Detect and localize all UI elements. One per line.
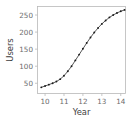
- data-point: [71, 65, 73, 67]
- data-point: [97, 27, 99, 29]
- y-tick-label: 50: [24, 79, 34, 88]
- x-tick-label: 13: [97, 97, 106, 106]
- y-tick-label: 100: [19, 62, 33, 71]
- data-point: [78, 54, 80, 56]
- data-point: [55, 81, 57, 83]
- data-point: [112, 14, 114, 16]
- users-vs-year-chart: 1011121314 50100150200250 Year Users: [0, 0, 132, 120]
- x-axis-title: Year: [72, 107, 91, 117]
- data-point: [86, 42, 88, 44]
- data-point: [124, 9, 126, 11]
- data-point: [63, 75, 65, 77]
- data-point: [90, 37, 92, 39]
- data-point: [116, 12, 118, 14]
- y-tick-label: 250: [19, 11, 33, 20]
- data-point: [105, 20, 107, 22]
- data-point: [52, 82, 54, 84]
- data-point: [59, 78, 61, 80]
- data-point: [93, 31, 95, 33]
- x-tick-label: 14: [116, 97, 126, 106]
- y-tick-label: 200: [19, 28, 33, 37]
- data-point: [74, 59, 76, 61]
- x-tick-label: 10: [40, 97, 50, 106]
- data-point: [48, 84, 50, 86]
- data-point: [101, 23, 103, 25]
- y-tick-label: 150: [19, 45, 33, 54]
- data-point: [40, 86, 42, 88]
- x-tick-label: 11: [59, 97, 68, 106]
- y-axis-title: Users: [5, 38, 15, 61]
- data-point: [82, 48, 84, 50]
- data-point: [120, 10, 122, 12]
- data-point: [44, 85, 46, 87]
- data-point: [108, 16, 110, 18]
- data-point: [67, 70, 69, 72]
- chart-container: 1011121314 50100150200250 Year Users: [0, 0, 132, 120]
- x-tick-label: 12: [78, 97, 87, 106]
